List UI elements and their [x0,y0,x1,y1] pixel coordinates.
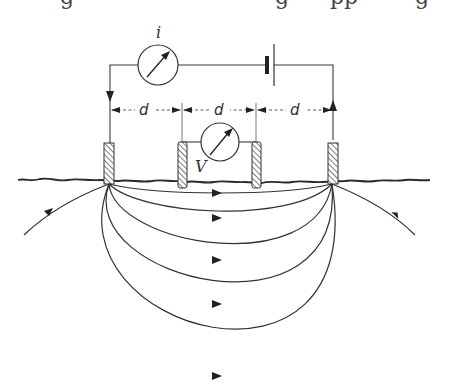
field-arrow-icon [212,372,222,380]
battery [265,44,274,86]
spacing-label-3: d [290,101,300,119]
field-arrow-icon [212,214,222,222]
current-electrode-left [104,143,114,184]
current-electrode-right [328,143,338,184]
potential-electrode-right [252,142,261,188]
spacing-label-1: d [139,101,149,119]
resistivity-diagram: g g pp g i [0,0,451,391]
potential-electrode-left [178,142,187,188]
battery-negative-plate [265,56,269,74]
field-arrow-icon [212,189,222,197]
svg-text:g: g [60,0,74,9]
svg-text:g: g [415,0,429,9]
ammeter-label: i [156,23,161,42]
outward-arrow-icon [44,208,53,216]
outer-field-lines [24,184,415,235]
current-field-lines [102,184,335,380]
voltmeter-label: V [195,157,208,176]
voltmeter-circuit: V [182,123,256,176]
svg-text:pp: pp [330,0,358,9]
clipped-caption-text: g g pp g [60,0,429,9]
current-down-arrow-icon [106,91,114,102]
svg-text:g: g [275,0,289,9]
ground-surface [18,179,430,183]
field-arrow-icon [212,256,222,264]
current-up-arrow-icon [329,100,337,111]
ammeter: i [138,23,178,85]
spacing-label-2: d [214,101,224,119]
field-arrow-icon [212,300,222,308]
